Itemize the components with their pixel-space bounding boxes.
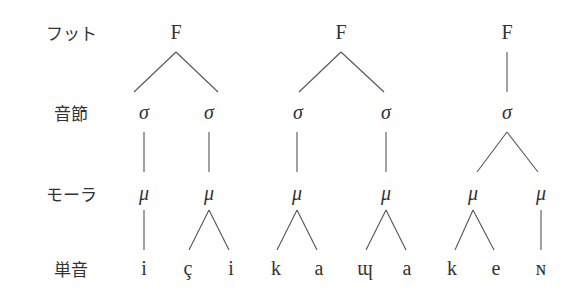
branch-m3-a (297, 210, 317, 250)
row-label-mora: モーラ (46, 181, 97, 206)
branch-f1-s2 (176, 52, 218, 92)
branch-f2-s2 (341, 52, 384, 92)
segment-i-1: i (141, 258, 147, 278)
syllable-node-2: σ (204, 102, 214, 122)
mora-node-4: μ (381, 183, 391, 203)
segment-k-2: k (447, 258, 457, 278)
row-label-foot: フット (46, 20, 97, 45)
branch-f1-s1 (134, 52, 176, 92)
segment-c-cedilla: ç (184, 258, 193, 278)
segment-velar-approximant: ɰ (357, 258, 373, 278)
segment-k-1: k (271, 258, 281, 278)
mora-node-2: μ (204, 183, 214, 203)
syllable-node-4: σ (381, 102, 391, 122)
mora-node-6: μ (536, 183, 546, 203)
branch-m5-k (455, 210, 473, 250)
mora-node-5: μ (468, 183, 478, 203)
segment-moraic-nasal: ɴ (536, 258, 546, 278)
foot-node-1: F (170, 22, 181, 42)
row-label-syllable: 音節 (54, 100, 88, 125)
branch-m4-w (366, 210, 386, 250)
segment-i-2: i (228, 258, 234, 278)
mora-node-1: μ (139, 183, 149, 203)
syllable-node-5: σ (502, 102, 512, 122)
branch-m4-a (386, 210, 406, 250)
segment-a-1: a (315, 258, 324, 278)
syllable-node-1: σ (139, 102, 149, 122)
syllable-node-3: σ (293, 102, 303, 122)
branch-m5-e (473, 210, 494, 250)
foot-node-2: F (335, 22, 346, 42)
branch-f2-s1 (299, 52, 341, 92)
segment-e: e (492, 258, 501, 278)
row-label-segment: 単音 (54, 256, 88, 281)
foot-node-3: F (501, 22, 512, 42)
branch-s5-m6 (507, 132, 538, 172)
branch-m2-c (189, 210, 209, 250)
branch-m3-k (277, 210, 297, 250)
segment-a-2: a (403, 258, 412, 278)
branch-m2-i (209, 210, 229, 250)
prosodic-hierarchy-diagram: フット 音節 モーラ 単音 F F F σ σ σ σ σ μ μ μ μ μ … (0, 0, 581, 294)
mora-node-3: μ (292, 183, 302, 203)
branch-s5-m5 (477, 132, 507, 172)
